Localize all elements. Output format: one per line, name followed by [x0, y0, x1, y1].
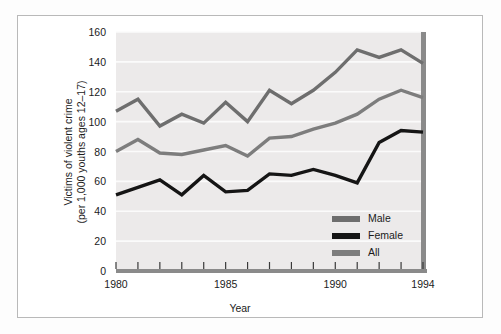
x-axis-line — [116, 269, 427, 273]
y-tick-140: 140 — [88, 56, 106, 68]
x-tick-label-1985: 1985 — [214, 278, 238, 290]
y-tick-60: 60 — [94, 175, 106, 187]
y-axis-tick-labels: 020406080100120140160 — [88, 26, 106, 277]
y-tick-160: 160 — [88, 26, 106, 38]
y-tick-0: 0 — [100, 265, 106, 277]
legend-swatch-all — [332, 250, 360, 256]
x-tick-label-1980: 1980 — [104, 278, 128, 290]
y-axis-title-line1: Victims of violent crime — [62, 98, 74, 205]
y-tick-40: 40 — [94, 205, 106, 217]
y-tick-120: 120 — [88, 86, 106, 98]
legend-label-all: All — [368, 246, 380, 258]
legend-swatch-male — [332, 216, 360, 222]
y-tick-20: 20 — [94, 235, 106, 247]
x-axis-tick-labels: 1980198519901994 — [104, 278, 435, 290]
y-axis-title-line2: (per 1,000 youths ages 12–17) — [75, 80, 87, 223]
line-chart: 020406080100120140160 1980198519901994 Y… — [0, 0, 501, 334]
figure-container: 020406080100120140160 1980198519901994 Y… — [0, 0, 501, 334]
legend-label-female: Female — [368, 229, 403, 241]
legend-label-male: Male — [368, 212, 391, 224]
y-tick-100: 100 — [88, 116, 106, 128]
y-tick-80: 80 — [94, 146, 106, 158]
right-axis-bar — [421, 32, 426, 273]
x-tick-label-1990: 1990 — [324, 278, 348, 290]
x-tick-label-1994: 1994 — [411, 278, 435, 290]
x-axis-title: Year — [229, 302, 251, 314]
legend-swatch-female — [332, 233, 360, 239]
